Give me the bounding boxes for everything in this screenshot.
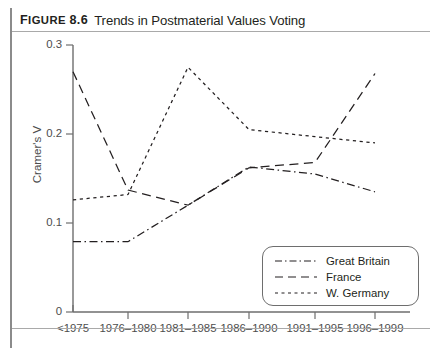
- y-axis-tick-label: 0: [22, 305, 62, 317]
- y-axis-tick-label: 0.1: [22, 216, 62, 228]
- series-line-w-germany: [73, 67, 375, 200]
- legend-swatch-long-dash: [274, 272, 318, 282]
- series-line-great-britain: [73, 167, 375, 242]
- legend-item-great-britain: Great Britain: [263, 253, 418, 269]
- legend-item-france: France: [263, 269, 418, 285]
- figure-container: FIGURE 8.6 Trends in Postmaterial Values…: [0, 0, 435, 352]
- y-axis-tick-label: 0.3: [22, 38, 62, 50]
- plot-area: 0.3 0.2 0.1 0 Cramer's V <1975 1976–1980…: [0, 0, 435, 352]
- legend-swatch-dash-dot: [274, 256, 318, 266]
- legend-label: France: [326, 271, 361, 283]
- legend-label: W. Germany: [326, 287, 389, 299]
- y-axis-title: Cramer's V: [30, 100, 43, 210]
- legend-label: Great Britain: [326, 255, 390, 267]
- figure-bottom-divider: [12, 328, 430, 329]
- legend-swatch-short-dash: [274, 288, 318, 298]
- legend-item-w-germany: W. Germany: [263, 285, 418, 301]
- series-line-france: [73, 72, 375, 206]
- chart-legend: Great Britain France W. Germany: [262, 246, 419, 306]
- series-layer: [73, 67, 375, 241]
